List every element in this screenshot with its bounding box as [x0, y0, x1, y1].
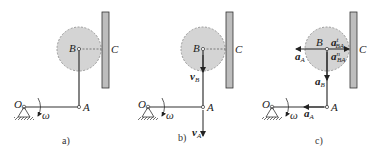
caption-c: c) — [315, 135, 323, 147]
svg-text:A: A — [206, 101, 214, 113]
svg-text:aB: aB — [315, 75, 326, 89]
svg-text:O: O — [138, 98, 146, 110]
panel-b: O A B C ω vB vA b) — [138, 12, 243, 144]
svg-text:vB: vB — [190, 70, 200, 84]
label-omega: ω — [42, 109, 50, 121]
label-c: C — [111, 43, 119, 55]
svg-text:C: C — [235, 43, 243, 55]
svg-text:ω: ω — [166, 109, 174, 121]
label-b: B — [69, 42, 76, 54]
svg-text:A: A — [330, 101, 338, 113]
label-a: A — [82, 101, 90, 113]
panel-a: O A B C ω a) — [14, 12, 119, 147]
svg-text:aA: aA — [304, 107, 315, 121]
svg-text:O: O — [262, 98, 270, 110]
svg-text:ω: ω — [290, 109, 298, 121]
svg-text:C: C — [359, 43, 367, 55]
caption-b: b) — [178, 132, 186, 144]
caption-a: a) — [62, 135, 70, 147]
label-o: O — [14, 98, 22, 110]
panel-c: O A B C ω aA atBA anBA aB aA c) — [262, 12, 367, 147]
svg-text:B: B — [193, 42, 200, 54]
svg-text:aA: aA — [295, 50, 306, 64]
mechanism-diagram: O A B C ω a) O A B C ω vB vA b) — [0, 0, 372, 157]
svg-text:vA: vA — [192, 126, 202, 140]
svg-text:B: B — [316, 36, 323, 48]
wall-c — [102, 12, 109, 88]
